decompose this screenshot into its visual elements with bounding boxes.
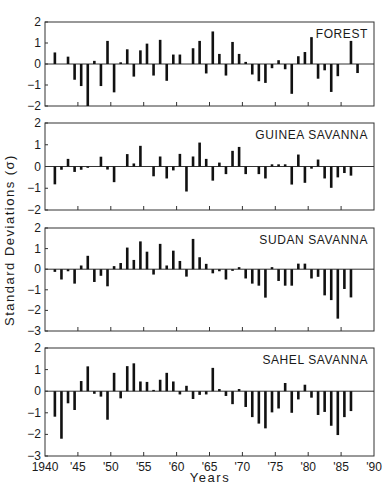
bar: [258, 269, 261, 285]
bar: [258, 64, 261, 81]
bar: [211, 31, 214, 64]
bar: [179, 55, 182, 64]
bar: [133, 64, 136, 77]
bar: [356, 64, 359, 73]
bar: [323, 269, 326, 295]
x-tick-label: '45: [70, 460, 86, 474]
bar: [330, 167, 333, 188]
bar: [113, 266, 116, 269]
bar: [126, 49, 129, 64]
bar: [251, 64, 254, 75]
bar: [80, 64, 83, 86]
bar: [54, 391, 57, 416]
bar: [185, 167, 188, 192]
bar: [323, 64, 326, 70]
bar: [218, 389, 221, 391]
bar: [100, 269, 103, 276]
bar: [231, 151, 234, 167]
bar: [73, 269, 76, 283]
bar: [119, 391, 122, 398]
bar: [54, 52, 57, 64]
bar: [73, 391, 76, 410]
bar: [54, 269, 57, 272]
bar: [258, 391, 261, 423]
bar: [244, 167, 247, 175]
panel-forest: 210−1−2FOREST: [27, 15, 374, 113]
bar: [225, 391, 228, 396]
panel-title: GUINEA SAVANNA: [255, 128, 368, 142]
bar: [133, 363, 136, 391]
bar: [258, 167, 261, 175]
bar: [343, 167, 346, 174]
bar: [343, 269, 346, 289]
y-tick-label: −1: [27, 78, 41, 92]
bar: [231, 391, 234, 404]
y-tick-label: −3: [27, 324, 41, 338]
bar: [277, 391, 280, 408]
bar: [317, 160, 320, 167]
bar: [139, 50, 142, 64]
bar: [225, 167, 228, 175]
bar: [350, 269, 353, 297]
bar: [126, 154, 129, 166]
bar: [165, 167, 168, 179]
y-tick-label: 2: [34, 221, 41, 235]
y-tick-label: −1: [27, 283, 41, 297]
y-tick-label: −1: [27, 406, 41, 420]
bar: [211, 167, 214, 181]
bar: [113, 167, 116, 183]
panel-sudan-savanna: 210−1−2−3SUDAN SAVANNA: [27, 221, 374, 338]
bar: [152, 64, 155, 76]
bar: [106, 41, 109, 64]
bar: [310, 37, 313, 64]
y-tick-label: 0: [34, 57, 41, 71]
y-tick-label: 1: [34, 363, 41, 377]
rainfall-anomaly-figure: 210−1−2FOREST210−1−2GUINEA SAVANNA210−1−…: [0, 0, 391, 498]
bar: [330, 64, 333, 92]
bar: [86, 64, 89, 106]
bar: [172, 167, 175, 171]
bar: [277, 164, 280, 166]
bar: [317, 64, 320, 79]
bar: [192, 239, 195, 269]
bar: [271, 267, 274, 269]
bar: [225, 269, 228, 279]
bar: [152, 269, 155, 274]
bar: [113, 64, 116, 92]
bar: [192, 156, 195, 166]
bar: [251, 269, 254, 283]
y-tick-label: 0: [34, 160, 41, 174]
bar: [86, 366, 89, 391]
bar: [337, 167, 340, 178]
bar: [179, 154, 182, 167]
bar: [297, 155, 300, 167]
bar: [73, 167, 76, 172]
bar: [317, 391, 320, 415]
bar: [264, 167, 267, 179]
bar: [133, 260, 136, 269]
bar: [244, 391, 247, 407]
bar: [350, 167, 353, 176]
bar: [244, 269, 247, 278]
panels-group: 210−1−2FOREST210−1−2GUINEA SAVANNA210−1−…: [27, 15, 374, 463]
bar: [323, 391, 326, 412]
y-tick-label: −2: [27, 203, 41, 217]
bar: [310, 391, 313, 397]
bar: [277, 269, 280, 281]
bar: [146, 252, 149, 270]
bar: [80, 381, 83, 391]
bar: [139, 381, 142, 391]
bar: [67, 159, 70, 167]
bar: [231, 269, 234, 271]
bar: [271, 64, 274, 68]
bar: [185, 269, 188, 276]
bar: [165, 373, 168, 391]
bar: [172, 55, 175, 64]
bar: [218, 269, 221, 271]
x-axis-title: Years: [190, 470, 230, 485]
bar: [337, 269, 340, 318]
bar: [271, 391, 274, 412]
bar: [198, 143, 201, 167]
bar: [100, 64, 103, 86]
bar: [146, 44, 149, 64]
